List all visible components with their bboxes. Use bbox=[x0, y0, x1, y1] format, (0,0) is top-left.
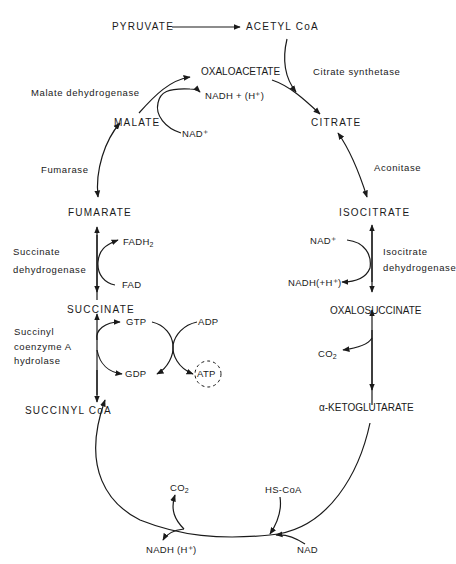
cofactor-atp: ATP bbox=[197, 368, 216, 380]
arrow-gdp-gtp bbox=[97, 322, 120, 340]
metabolite-fumarate: FUMARATE bbox=[68, 207, 132, 219]
arrow-akg-succinylcoa bbox=[96, 400, 370, 537]
enzyme-citrate-synthetase: Citrate synthetase bbox=[313, 66, 400, 78]
cofactor-gtp: GTP bbox=[126, 316, 146, 328]
metabolite-pyruvate: PYRUVATE bbox=[112, 21, 174, 33]
arrow-fad-fadh2 bbox=[98, 240, 118, 285]
metabolite-citrate: CITRATE bbox=[311, 117, 361, 129]
enzyme-malate-dehydrogenase: Malate dehydrogenase bbox=[31, 87, 140, 99]
metabolite-alpha-ketoglutarate: α-KETOGLUTARATE bbox=[319, 402, 414, 414]
arrow-hscoa-in bbox=[270, 497, 281, 534]
cofactor-gdp: GDP bbox=[125, 368, 147, 380]
arrow-malate-oxaloacetate bbox=[139, 77, 190, 113]
cofactor-adp: ADP bbox=[198, 316, 218, 328]
arrow-co2-out bbox=[343, 338, 372, 350]
metabolite-oxalosuccinate: OXALOSUCCINATE bbox=[330, 305, 422, 317]
enzyme-succinyl-coa-hydrolase-line2: coenzyme A bbox=[14, 341, 72, 353]
enzyme-aconitase: Aconitase bbox=[374, 162, 421, 174]
cofactor-fadh2: FADH2 bbox=[123, 236, 154, 251]
arrow-nad-in bbox=[276, 535, 305, 544]
cofactor-nadh-malate: NADH + (H⁺) bbox=[205, 90, 264, 102]
enzyme-succinate-dehydrogenase-line1: Succinate bbox=[13, 246, 60, 258]
arrow-acetylcoa-citrate bbox=[285, 39, 296, 92]
arrow-citrate-isocitrate bbox=[338, 133, 367, 197]
metabolite-malate: MALATE bbox=[114, 117, 160, 129]
enzyme-isocitrate-dehydrogenase-line2: dehydrogenase bbox=[383, 262, 456, 274]
arrow-to-gdp bbox=[97, 350, 122, 374]
enzyme-succinyl-coa-hydrolase-line3: hydrolase bbox=[14, 355, 61, 367]
arrow-oxaloacetate-citrate bbox=[272, 80, 320, 114]
cofactor-nad-plus-isocitrate: NAD⁺ bbox=[310, 235, 336, 247]
enzyme-fumarase: Fumarase bbox=[41, 164, 89, 176]
metabolite-acetyl-coa: ACETYL CoA bbox=[246, 21, 319, 33]
arrow-nad-nadh-isocitrate bbox=[342, 240, 370, 282]
arrow-nad-nadh-malate bbox=[157, 89, 200, 133]
metabolite-oxaloacetate: OXALOACETATE bbox=[201, 66, 280, 78]
cofactor-nad-bottom: NAD bbox=[297, 544, 318, 556]
metabolite-succinate: SUCCINATE bbox=[67, 304, 135, 316]
cofactor-nad-plus-malate: NAD⁺ bbox=[182, 128, 208, 140]
metabolite-succinyl-coa: SUCCINYL CoA bbox=[25, 405, 112, 417]
enzyme-succinate-dehydrogenase-line2: dehydrogenase bbox=[13, 264, 86, 276]
arrow-gtp-to-gdp bbox=[152, 322, 173, 374]
arrow-fumarate-malate bbox=[97, 123, 120, 197]
cofactor-nadh-bottom: NADH (H⁺) bbox=[146, 544, 196, 556]
cofactor-co2-bottom: CO2 bbox=[170, 482, 189, 497]
cofactor-fad: FAD bbox=[122, 279, 141, 291]
enzyme-isocitrate-dehydrogenase-line1: Isocitrate bbox=[383, 246, 428, 258]
cofactor-hs-coa: HS-CoA bbox=[265, 484, 302, 496]
enzyme-succinyl-coa-hydrolase-line1: Succinyl bbox=[14, 326, 54, 338]
cofactor-nadh-isocitrate: NADH(+H⁺) bbox=[288, 277, 341, 289]
metabolite-isocitrate: ISOCITRATE bbox=[339, 207, 410, 219]
arrow-co2-bottom bbox=[173, 495, 184, 529]
cofactor-co2-oxalosuccinate: CO2 bbox=[318, 348, 337, 363]
arrow-adp-to-atp bbox=[173, 322, 197, 374]
